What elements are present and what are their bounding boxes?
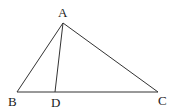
triangle-figure: A B D C [0, 0, 176, 112]
vertex-label-c: C [158, 93, 167, 108]
vertex-label-a: A [58, 5, 68, 20]
geometry-diagram: A B D C [0, 0, 176, 112]
vertex-label-b: B [8, 94, 17, 109]
segment-ac [63, 23, 158, 92]
point-label-d: D [51, 95, 60, 110]
